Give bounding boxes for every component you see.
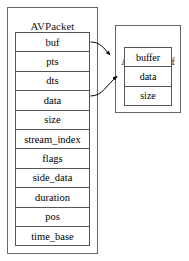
field-row-flags: flags: [16, 149, 89, 168]
field-row-duration: duration: [16, 188, 89, 207]
field-row-dts: dts: [16, 72, 89, 91]
field-row-buffer: buffer: [125, 48, 171, 67]
diagram-canvas: AVPacket buf pts dts data size stream_in…: [0, 0, 189, 261]
field-row-bufref-size: size: [125, 87, 171, 106]
field-row-pts: pts: [16, 52, 89, 71]
field-row-time-base: time_base: [16, 227, 89, 246]
avpacket-field-table: buf pts dts data size stream_index flags…: [15, 32, 90, 246]
avbufferref-field-table: buffer data size: [124, 47, 172, 106]
field-row-side-data: side_data: [16, 169, 89, 188]
field-row-buf: buf: [16, 33, 89, 52]
field-row-bufref-data: data: [125, 67, 171, 86]
field-row-data: data: [16, 91, 89, 110]
field-row-size: size: [16, 111, 89, 130]
field-row-pos: pos: [16, 208, 89, 227]
field-row-stream-index: stream_index: [16, 130, 89, 149]
